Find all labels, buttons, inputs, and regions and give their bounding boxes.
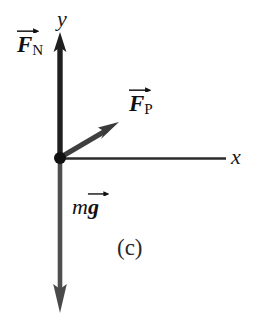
- applied-force-symbol: F: [129, 92, 144, 115]
- weight-vector: [53, 158, 67, 313]
- applied-force-arrowhead: [98, 122, 119, 139]
- x-axis-label: x: [231, 146, 241, 168]
- free-body-diagram-figure: y x F N F P m g (: [0, 0, 262, 323]
- weight-symbol-group: g: [88, 196, 99, 218]
- normal-force-subscript: N: [32, 41, 43, 58]
- applied-force-shaft: [61, 130, 107, 157]
- weight-label: m g: [72, 196, 99, 218]
- panel-label: (c): [117, 236, 143, 259]
- applied-force-label: F P: [129, 92, 153, 117]
- origin-dot: [54, 152, 66, 164]
- y-axis-label: y: [57, 8, 67, 30]
- normal-force-symbol: F: [17, 33, 32, 56]
- applied-force-vector: [61, 122, 119, 157]
- weight-mass-symbol: m: [72, 194, 88, 219]
- weight-symbol: g: [88, 196, 99, 218]
- applied-force-symbol-group: F: [129, 92, 144, 115]
- normal-force-symbol-group: F: [17, 33, 32, 56]
- normal-force-label: F N: [17, 33, 43, 58]
- applied-force-subscript: P: [144, 100, 152, 117]
- normal-force-vector: [54, 32, 67, 158]
